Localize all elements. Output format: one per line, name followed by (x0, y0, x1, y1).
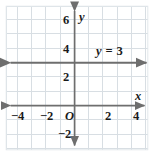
equation-label-y-equals-3: y = 3 (96, 45, 123, 58)
y-tick-label-2: 2 (63, 71, 69, 84)
y-tick-label-6: 6 (63, 14, 69, 27)
x-tick-label-2: 2 (105, 110, 111, 123)
equation-equals-sign: = (105, 44, 113, 58)
graph-svg (0, 0, 154, 159)
x-tick-label-minus-4: −4 (11, 110, 24, 123)
equation-value: 3 (117, 44, 124, 58)
x-axis-name-label: x (135, 90, 141, 103)
x-tick-label-minus-2: −2 (40, 110, 53, 123)
y-tick-label-4: 4 (63, 43, 69, 56)
coordinate-plane-figure: y x 6 4 2 −2 −4 −2 2 4 O y = 3 (0, 0, 154, 159)
y-axis-name-label: y (79, 11, 85, 24)
graph-canvas (0, 0, 154, 159)
y-tick-label-minus-2: −2 (58, 128, 71, 141)
plot-background (6, 6, 148, 150)
origin-label: O (65, 110, 74, 123)
x-tick-label-4: 4 (133, 110, 139, 123)
